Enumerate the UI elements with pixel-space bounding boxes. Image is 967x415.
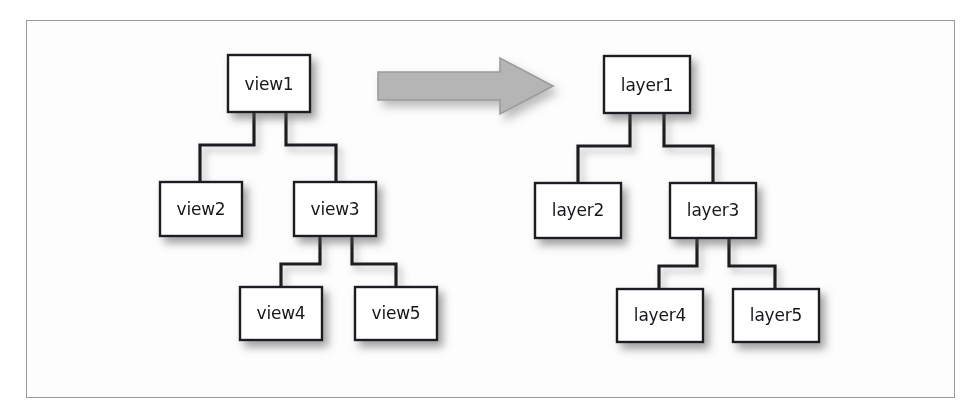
figure-root: view1 view2 view3 view4 view5: [0, 0, 967, 415]
node-view3-label: view3: [311, 199, 360, 219]
connector-view3-view5: [352, 236, 396, 287]
node-layer3[interactable]: layer3: [670, 183, 756, 238]
node-layer2[interactable]: layer2: [535, 183, 621, 238]
block-arrow-right-icon: [378, 58, 553, 114]
node-view5[interactable]: view5: [355, 287, 437, 340]
node-layer4[interactable]: layer4: [617, 289, 703, 342]
node-view1-label: view1: [245, 74, 294, 94]
node-view3[interactable]: view3: [294, 182, 376, 236]
diagram-canvas: view1 view2 view3 view4 view5: [0, 0, 967, 415]
node-layer1-label: layer1: [621, 75, 673, 95]
node-layer1[interactable]: layer1: [604, 56, 690, 113]
connector-layer1-layer2: [578, 113, 630, 183]
node-view2-label: view2: [177, 199, 226, 219]
right-tree-group: layer1 layer2 layer3 layer4 layer5: [535, 56, 819, 342]
block-arrow-right-shape: [378, 58, 553, 114]
connector-view1-view2: [200, 112, 254, 182]
node-view2[interactable]: view2: [160, 182, 242, 236]
node-layer5-label: layer5: [750, 305, 802, 325]
connector-layer3-layer4: [659, 238, 697, 289]
node-view4[interactable]: view4: [240, 287, 322, 340]
connector-view1-view3: [286, 112, 336, 182]
node-layer3-label: layer3: [687, 200, 739, 220]
node-view5-label: view5: [372, 303, 421, 323]
node-layer4-label: layer4: [634, 305, 686, 325]
node-view4-label: view4: [257, 303, 306, 323]
node-layer2-label: layer2: [552, 200, 604, 220]
connector-layer3-layer5: [729, 238, 775, 289]
node-layer5[interactable]: layer5: [733, 289, 819, 342]
node-view1[interactable]: view1: [228, 55, 310, 112]
connector-layer1-layer3: [664, 113, 713, 183]
connector-view3-view4: [281, 236, 320, 287]
